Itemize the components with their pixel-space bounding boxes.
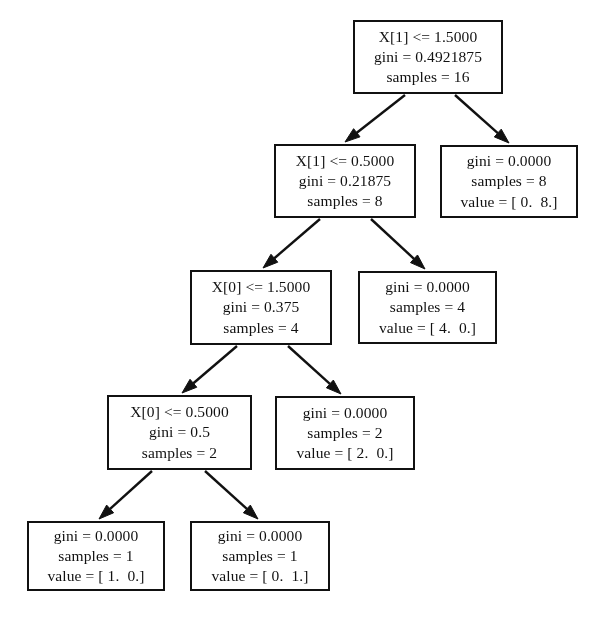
tree-node-n8-line-3: value = [ 0. 1.] bbox=[212, 566, 309, 586]
decision-tree-diagram: X[1] <= 1.5000gini = 0.4921875samples = … bbox=[0, 0, 606, 638]
tree-node-n2-line-2: samples = 8 bbox=[471, 171, 546, 191]
tree-edge-n1-n4 bbox=[371, 219, 425, 269]
tree-node-n1-line-2: gini = 0.21875 bbox=[299, 171, 391, 191]
tree-node-n4-line-2: samples = 4 bbox=[390, 297, 465, 317]
tree-node-n3-line-1: X[0] <= 1.5000 bbox=[212, 277, 311, 297]
tree-node-n5: X[0] <= 0.5000gini = 0.5samples = 2 bbox=[107, 395, 252, 470]
tree-node-n8-line-2: samples = 1 bbox=[222, 546, 297, 566]
tree-edge-root-n1 bbox=[345, 95, 405, 142]
tree-node-root-line-3: samples = 16 bbox=[386, 67, 469, 87]
tree-node-root-line-1: X[1] <= 1.5000 bbox=[379, 27, 478, 47]
tree-node-n2: gini = 0.0000samples = 8value = [ 0. 8.] bbox=[440, 145, 578, 218]
tree-node-n3: X[0] <= 1.5000gini = 0.375samples = 4 bbox=[190, 270, 332, 345]
tree-edge-root-n2 bbox=[455, 95, 509, 143]
tree-node-root: X[1] <= 1.5000gini = 0.4921875samples = … bbox=[353, 20, 503, 94]
tree-node-n2-line-3: value = [ 0. 8.] bbox=[461, 192, 558, 212]
tree-node-n4-line-1: gini = 0.0000 bbox=[385, 277, 470, 297]
tree-node-n7-line-1: gini = 0.0000 bbox=[54, 526, 139, 546]
tree-node-n7: gini = 0.0000samples = 1value = [ 1. 0.] bbox=[27, 521, 165, 591]
tree-node-n7-line-3: value = [ 1. 0.] bbox=[48, 566, 145, 586]
tree-node-n7-line-2: samples = 1 bbox=[58, 546, 133, 566]
tree-node-n4: gini = 0.0000samples = 4value = [ 4. 0.] bbox=[358, 271, 497, 344]
tree-node-n6-line-1: gini = 0.0000 bbox=[303, 403, 388, 423]
tree-node-n6: gini = 0.0000samples = 2value = [ 2. 0.] bbox=[275, 396, 415, 470]
tree-edge-n5-n8 bbox=[205, 471, 258, 519]
tree-node-n8-line-1: gini = 0.0000 bbox=[218, 526, 303, 546]
tree-edge-n1-n3 bbox=[263, 219, 320, 268]
tree-node-n2-line-1: gini = 0.0000 bbox=[467, 151, 552, 171]
tree-node-n3-line-3: samples = 4 bbox=[223, 318, 298, 338]
tree-node-n8: gini = 0.0000samples = 1value = [ 0. 1.] bbox=[190, 521, 330, 591]
tree-node-n4-line-3: value = [ 4. 0.] bbox=[379, 318, 476, 338]
tree-node-n1-line-3: samples = 8 bbox=[307, 191, 382, 211]
tree-node-n1-line-1: X[1] <= 0.5000 bbox=[296, 151, 395, 171]
tree-edge-n3-n5 bbox=[182, 346, 237, 393]
tree-node-root-line-2: gini = 0.4921875 bbox=[374, 47, 482, 67]
tree-edge-n5-n7 bbox=[99, 471, 152, 519]
tree-node-n6-line-3: value = [ 2. 0.] bbox=[297, 443, 394, 463]
tree-node-n5-line-2: gini = 0.5 bbox=[149, 422, 210, 442]
tree-node-n5-line-3: samples = 2 bbox=[142, 443, 217, 463]
tree-node-n5-line-1: X[0] <= 0.5000 bbox=[130, 402, 229, 422]
tree-edge-n3-n6 bbox=[288, 346, 341, 394]
tree-node-n1: X[1] <= 0.5000gini = 0.21875samples = 8 bbox=[274, 144, 416, 218]
tree-node-n3-line-2: gini = 0.375 bbox=[223, 297, 300, 317]
tree-node-n6-line-2: samples = 2 bbox=[307, 423, 382, 443]
